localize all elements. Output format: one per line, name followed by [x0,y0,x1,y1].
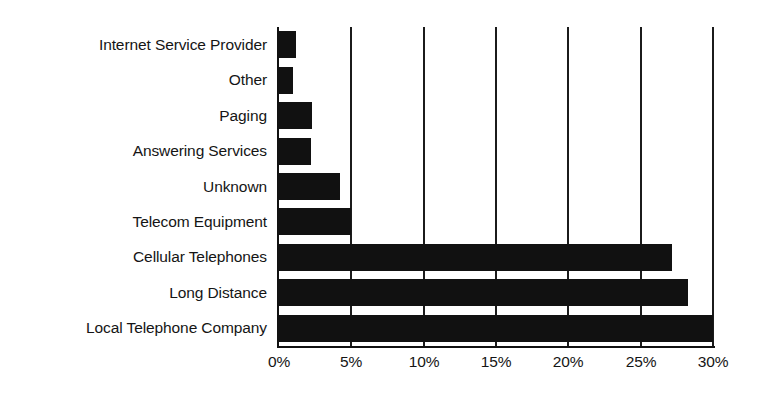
x-tick-label: 25% [611,352,671,372]
category-axis-labels: Internet Service ProviderOtherPagingAnsw… [0,27,273,346]
x-tick-label: 20% [538,352,598,372]
bar [279,31,296,58]
bar [279,208,351,235]
x-tick-label: 10% [394,352,454,372]
category-label: Cellular Telephones [0,249,273,265]
value-axis-labels: 0%5%10%15%20%25%30% [0,352,768,376]
x-tick-label: 0% [249,352,309,372]
category-label: Long Distance [0,285,273,301]
bar [279,279,688,306]
bar [279,102,312,129]
bar [279,315,713,342]
category-label: Other [0,72,273,88]
bar [279,173,340,200]
x-tick-label: 15% [466,352,526,372]
category-label: Internet Service Provider [0,37,273,53]
bar-chart: Internet Service ProviderOtherPagingAnsw… [0,0,768,403]
category-label: Local Telephone Company [0,320,273,336]
bar [279,138,311,165]
plot-area [279,27,713,346]
x-tick-label: 30% [683,352,743,372]
category-label: Unknown [0,179,273,195]
x-tick-label: 5% [321,352,381,372]
bar [279,244,672,271]
x-axis-baseline [277,346,715,348]
category-label: Answering Services [0,143,273,159]
bar [279,67,293,94]
category-label: Telecom Equipment [0,214,273,230]
bars-group [279,27,713,346]
category-label: Paging [0,108,273,124]
